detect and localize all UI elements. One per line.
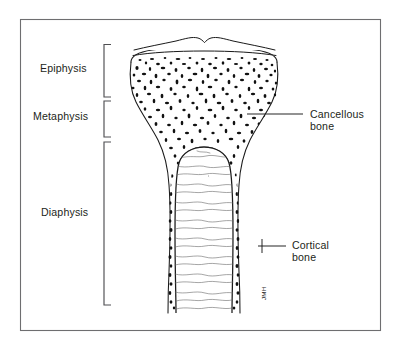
label-diaphysis: Diaphysis bbox=[41, 206, 88, 218]
label-epiphysis: Epiphysis bbox=[40, 62, 87, 74]
bone-anatomy-figure: Epiphysis Metaphysis Diaphysis Cancellou… bbox=[0, 0, 409, 350]
callout-cortical-line2: bone bbox=[292, 251, 316, 263]
callout-cortical-line1: Cortical bbox=[292, 239, 329, 251]
artist-signature: JMH bbox=[260, 287, 267, 300]
label-metaphysis: Metaphysis bbox=[33, 110, 88, 122]
callout-cancellous-line1: Cancellous bbox=[310, 108, 364, 120]
bone-diagram-svg: Epiphysis Metaphysis Diaphysis Cancellou… bbox=[0, 0, 409, 350]
callout-cancellous-line2: bone bbox=[310, 120, 334, 132]
